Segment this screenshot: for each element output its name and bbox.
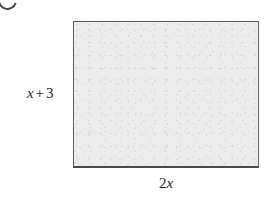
- height-dimension-label: x+3: [27, 86, 54, 101]
- width-dimension-label: 2x: [73, 176, 259, 191]
- rectangle-shape: [73, 21, 259, 168]
- height-label-variable: x: [27, 85, 34, 101]
- crop-artifact-glyph: [0, 0, 20, 13]
- figure-canvas: x+3 2x: [0, 0, 264, 203]
- width-label-variable: x: [166, 175, 173, 191]
- height-label-constant: 3: [46, 85, 54, 101]
- height-label-operator: +: [34, 85, 46, 101]
